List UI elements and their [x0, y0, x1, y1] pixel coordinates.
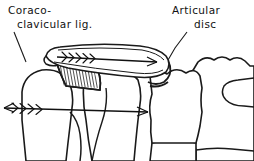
figure-canvas: Coraco- clavicular lig. Articular disc: [0, 0, 254, 161]
ad-label-line1: Articular: [172, 4, 221, 16]
anatomical-figure: Coraco- clavicular lig. Articular disc: [0, 0, 254, 161]
cc-label-line1: Coraco-: [8, 4, 52, 16]
leader-line-coracoclavicular: [14, 32, 26, 62]
ad-label-line2: disc: [194, 18, 216, 30]
cc-label-line2: clavicular lig.: [17, 18, 93, 30]
sternum-manubrium: [150, 70, 202, 143]
coracoclavicular-ligament-label: Coraco- clavicular lig.: [8, 4, 93, 30]
articular-disc-label: Articular disc: [172, 4, 221, 30]
